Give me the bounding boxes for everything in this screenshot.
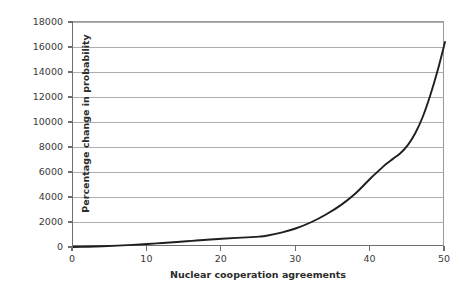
- y-tick-label: 8000: [1, 142, 63, 152]
- x-tick-mark: [295, 246, 296, 251]
- y-tick-mark: [68, 96, 73, 97]
- x-tick-label: 10: [126, 253, 166, 264]
- x-tick-label: 50: [424, 253, 462, 264]
- x-tick-label: 40: [350, 253, 390, 264]
- y-tick-mark: [68, 46, 73, 47]
- y-tick-mark: [68, 171, 73, 172]
- y-tick-label: 2000: [1, 217, 63, 227]
- y-tick-mark: [68, 146, 73, 147]
- y-tick-label: 16000: [1, 42, 63, 52]
- y-tick-label: 4000: [1, 192, 63, 202]
- y-tick-label: 6000: [1, 167, 63, 177]
- plot-area: 0200040006000800010000120001400016000180…: [72, 21, 444, 246]
- y-tick-mark: [68, 221, 73, 222]
- y-tick-label: 10000: [1, 117, 63, 127]
- x-tick-mark: [369, 246, 370, 251]
- chart-figure: 0200040006000800010000120001400016000180…: [0, 0, 462, 287]
- x-tick-label: 0: [52, 253, 92, 264]
- x-tick-mark: [71, 246, 72, 251]
- series-line-path: [73, 42, 445, 247]
- y-tick-mark: [68, 21, 73, 22]
- x-tick-mark: [443, 246, 444, 251]
- x-tick-label: 30: [275, 253, 315, 264]
- line-series-svg: [73, 22, 445, 247]
- x-axis-title: Nuclear cooperation agreements: [72, 269, 444, 280]
- x-tick-mark: [146, 246, 147, 251]
- y-axis-title: Percentage change in probability: [80, 24, 91, 224]
- y-tick-mark: [68, 71, 73, 72]
- y-tick-label: 0: [1, 242, 63, 252]
- y-tick-label: 18000: [1, 17, 63, 27]
- y-tick-mark: [68, 121, 73, 122]
- x-axis: 01020304050 Nuclear cooperation agreemen…: [72, 246, 444, 286]
- x-tick-label: 20: [201, 253, 241, 264]
- y-tick-label: 12000: [1, 92, 63, 102]
- x-tick-mark: [220, 246, 221, 251]
- y-tick-mark: [68, 196, 73, 197]
- y-tick-label: 14000: [1, 67, 63, 77]
